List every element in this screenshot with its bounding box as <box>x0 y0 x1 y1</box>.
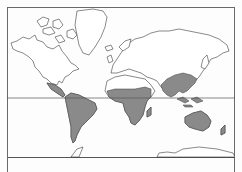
shaded-central-america <box>47 83 65 97</box>
caption-area <box>7 158 235 172</box>
shaded-australia <box>185 111 211 131</box>
shaded-madagascar <box>147 107 151 117</box>
antarctica <box>71 147 235 157</box>
shaded-new-zealand <box>221 125 225 135</box>
figure-page <box>0 0 242 172</box>
world-map <box>7 7 235 158</box>
shaded-africa <box>107 87 151 125</box>
north-america <box>11 35 79 85</box>
greenland <box>75 9 107 55</box>
shaded-maritime-se-asia <box>177 97 203 107</box>
shaded-south-america <box>65 93 97 143</box>
